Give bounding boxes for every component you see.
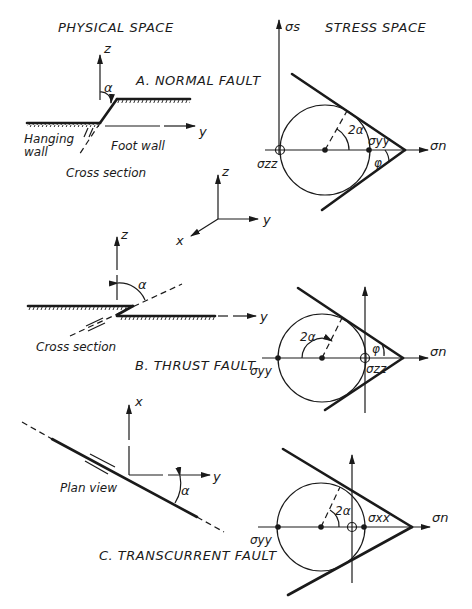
sigma-zz-label: σzz [366, 362, 387, 376]
panel-b-stress: σn 2α σyy σzz φ [250, 287, 446, 413]
z-axis-label: z [120, 227, 129, 242]
sigma-yy-point [275, 355, 281, 361]
failure-envelope-lower [288, 527, 412, 595]
failure-envelope-lower [322, 150, 405, 210]
phi-arc [385, 150, 389, 162]
panel-a-physical: z y α A. NORMAL FAULT Hanging wall Foot … [24, 41, 261, 180]
fault-extension [79, 123, 100, 155]
circle-center [318, 524, 324, 530]
sigma-n-label: σn [430, 138, 446, 153]
fault-extension-right [197, 517, 224, 532]
panel-b-physical: z y α Cross section B. THRUST FAULT [28, 227, 268, 373]
sigma-yy-point [275, 524, 281, 530]
alpha-arc [175, 476, 181, 503]
y-axis-label: y [212, 469, 221, 484]
cross-section-caption: Cross section [66, 166, 146, 180]
stress-space-header: STRESS SPACE [325, 20, 427, 35]
fault-plane [100, 99, 117, 123]
physical-space-header: PHYSICAL SPACE [58, 20, 174, 35]
panel-a-title: A. NORMAL FAULT [135, 73, 261, 88]
fault-stress-diagram: PHYSICAL SPACE STRESS SPACE z y α A. NOR… [0, 0, 472, 609]
two-alpha-label: 2α [335, 504, 351, 518]
sigma-xx-point [361, 524, 367, 530]
two-alpha-label: 2α [348, 123, 364, 137]
fault-trace [52, 439, 197, 517]
alpha-label: α [138, 277, 147, 292]
hanging-wall-label-2: wall [24, 145, 49, 159]
sigma-yy-label: σyy [250, 364, 273, 378]
phi-label: φ [374, 156, 382, 170]
sigma-xx-label: σxx [368, 511, 391, 525]
cross-section-caption: Cross section [36, 340, 116, 354]
sigma-yy-label: σyy [250, 533, 273, 547]
sigma-yy-point [366, 147, 372, 153]
panel-a-stress: σs σn 2α σzz σyy φ [257, 19, 446, 210]
sigma-n-label: σn [430, 344, 446, 359]
y-axis-label: y [259, 309, 268, 324]
sigma-s-label: σs [285, 19, 300, 34]
alpha-label: α [104, 80, 113, 95]
panel-c-title: C. TRANSCURRENT FAULT [99, 548, 277, 563]
sigma-yy-label: σyy [368, 134, 391, 148]
panel-c-stress: σn 2α σyy σxx [250, 449, 448, 595]
y-axis-label: y [198, 124, 207, 139]
circle-center [319, 355, 325, 361]
sigma-n-label: σn [432, 510, 448, 525]
panel-c-physical: x y α Plan view C. TRANSCURRENT FAULT [22, 394, 277, 563]
ref-x-label: x [175, 233, 184, 248]
panel-b-title: B. THRUST FAULT [135, 358, 256, 373]
radius-line [325, 111, 347, 150]
sigma-zz-label: σzz [257, 157, 278, 171]
slip-arrow-1 [84, 128, 88, 137]
failure-envelope-upper [298, 288, 403, 358]
two-alpha-label: 2α [300, 330, 316, 344]
hanging-wall-label: Hanging [24, 132, 75, 146]
circle-center [322, 147, 328, 153]
x-axis-label: x [134, 394, 143, 409]
foot-wall-label: Foot wall [111, 139, 166, 153]
ref-y-label: y [262, 212, 271, 227]
ref-x-arrow [191, 219, 218, 236]
ref-z-label: z [221, 164, 230, 179]
reference-axes: z y x [175, 164, 271, 248]
phi-label: φ [372, 342, 380, 356]
failure-envelope-lower [325, 358, 403, 410]
plan-view-caption: Plan view [60, 481, 117, 495]
z-axis-label: z [103, 41, 112, 56]
fault-extension-left [22, 422, 52, 439]
alpha-label: α [181, 483, 190, 498]
